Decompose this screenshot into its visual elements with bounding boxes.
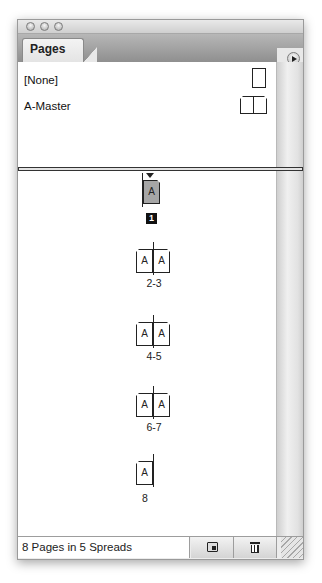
page-thumbnail[interactable]: A — [136, 322, 153, 346]
new-page-button[interactable] — [191, 537, 234, 558]
zoom-button[interactable] — [54, 22, 63, 31]
spread-label: 8 — [125, 492, 165, 504]
trash-icon — [250, 541, 260, 553]
spread-1[interactable]: A 1 — [142, 169, 172, 229]
page-number-badge: 1 — [146, 213, 157, 224]
close-button[interactable] — [26, 22, 35, 31]
vertical-scrollbar[interactable] — [276, 62, 303, 537]
spread-8[interactable]: A 8 — [134, 454, 174, 514]
page-thumbnail[interactable]: A — [153, 393, 170, 417]
pages-panel-window: Pages [None] A-Master A 1 A A 2-3 — [17, 19, 304, 560]
page-thumbnail[interactable]: A — [143, 180, 160, 204]
page-thumbnail[interactable]: A — [136, 461, 153, 485]
masters-pages-divider[interactable] — [18, 167, 303, 171]
master-label: A-Master — [24, 100, 71, 112]
page-thumbnail[interactable]: A — [136, 249, 153, 273]
spread-4-5[interactable]: A A 4-5 — [134, 315, 174, 375]
panel-footer: 8 Pages in 5 Spreads — [18, 536, 303, 559]
master-item-none[interactable]: [None] — [24, 74, 58, 86]
resize-grip[interactable] — [281, 537, 303, 558]
spine-line — [153, 454, 154, 487]
master-item-a-master[interactable]: A-Master — [24, 100, 71, 112]
page-thumbnail[interactable]: A — [153, 249, 170, 273]
spread-label: 2-3 — [134, 277, 174, 289]
pages-content: [None] A-Master A 1 A A 2-3 A A — [18, 62, 276, 537]
delete-page-button[interactable] — [234, 537, 277, 558]
master-applied-marker-icon — [146, 173, 154, 178]
page-thumbnail[interactable]: A — [153, 322, 170, 346]
minimize-button[interactable] — [40, 22, 49, 31]
spread-2-3[interactable]: A A 2-3 — [134, 242, 174, 302]
facing-pages-icon — [240, 96, 268, 114]
page-count-status: 8 Pages in 5 Spreads — [18, 537, 190, 558]
spread-label: 4-5 — [134, 350, 174, 362]
new-page-icon — [207, 542, 218, 552]
tab-pages[interactable]: Pages — [22, 38, 84, 62]
title-bar[interactable] — [18, 20, 303, 34]
single-page-icon — [252, 68, 266, 88]
spine-line — [142, 173, 143, 207]
master-label: [None] — [24, 74, 58, 86]
spread-label: 6-7 — [134, 421, 174, 433]
spread-6-7[interactable]: A A 6-7 — [134, 386, 174, 446]
panel-tab-bar: Pages — [18, 34, 303, 62]
page-thumbnail[interactable]: A — [136, 393, 153, 417]
